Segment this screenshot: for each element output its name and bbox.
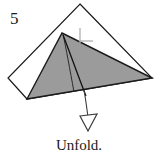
origami-step-figure: 5 Unfold. <box>0 0 159 155</box>
origami-diagram: 5 Unfold. <box>0 0 159 155</box>
caption-label: Unfold. <box>56 137 102 153</box>
step-number: 5 <box>10 9 19 28</box>
